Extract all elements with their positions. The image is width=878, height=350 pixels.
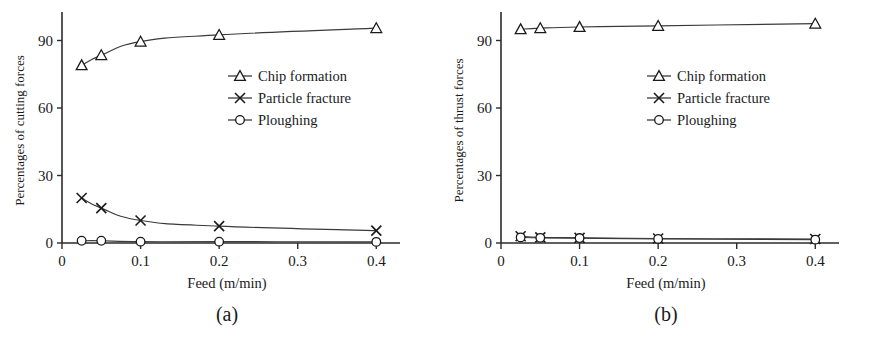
figure-two-panel-chart: 030609000.10.20.30.4Percentages of cutti… [0,0,878,350]
data-point-ploughing [516,233,525,242]
data-point-ploughing [97,236,106,245]
x-axis-title: Feed (m/min) [187,275,267,292]
legend: Chip formationParticle fracturePloughing [647,68,770,128]
x-tick-label: 0.1 [570,253,589,269]
x-tick-label: 0 [497,253,505,269]
y-tick-label: 0 [485,235,493,251]
legend-item-ploughing: Ploughing [228,112,318,128]
legend: Chip formationParticle fracturePloughing [228,68,351,128]
legend-label: Ploughing [677,112,737,128]
data-point-chip-formation [96,50,107,60]
chart-panel-a: 030609000.10.20.30.4Percentages of cutti… [0,0,439,350]
legend-label: Particle fracture [677,90,770,106]
x-tick-label: 0.1 [131,253,150,269]
y-tick-label: 90 [38,33,53,49]
series-line-chip-formation [82,28,377,65]
y-axis-title: Percentages of thrust forces [451,58,466,202]
legend-marker-circle-icon [236,116,245,125]
panel-caption: (a) [216,303,238,326]
data-point-ploughing [77,236,86,245]
data-point-ploughing [575,234,584,243]
data-point-ploughing [136,237,145,246]
legend-item-chip-formation: Chip formation [647,68,767,84]
legend-label: Ploughing [258,112,318,128]
y-tick-label: 30 [477,168,492,184]
data-point-ploughing [215,237,224,246]
data-point-chip-formation [371,23,382,33]
series-line-chip-formation [521,24,816,30]
legend-item-ploughing: Ploughing [647,112,737,128]
x-tick-label: 0 [58,253,66,269]
legend-label: Chip formation [258,68,348,84]
x-tick-label: 0.4 [806,253,825,269]
x-tick-label: 0.2 [649,253,668,269]
data-point-ploughing [372,238,381,247]
y-tick-label: 30 [38,168,53,184]
x-tick-label: 0.2 [210,253,229,269]
y-tick-label: 60 [38,100,53,116]
legend-item-chip-formation: Chip formation [228,68,348,84]
x-tick-label: 0.3 [288,253,307,269]
data-point-ploughing [811,235,820,244]
legend-item-particle-fracture: Particle fracture [647,90,770,106]
legend-marker-circle-icon [655,116,664,125]
x-tick-label: 0.3 [727,253,746,269]
data-point-particle-fracture [96,203,106,213]
data-point-chip-formation [76,60,87,70]
data-point-ploughing [536,234,545,243]
legend-label: Chip formation [677,68,767,84]
x-tick-label: 0.4 [367,253,386,269]
chart-panel-b: 030609000.10.20.30.4Percentages of thrus… [439,0,878,350]
chart-svg-a: 030609000.10.20.30.4Percentages of cutti… [0,0,439,350]
series-line-particle-fracture [82,198,377,231]
legend-label: Particle fracture [258,90,351,106]
chart-svg-b: 030609000.10.20.30.4Percentages of thrus… [439,0,878,350]
data-point-ploughing [654,235,663,244]
y-tick-label: 0 [46,235,54,251]
legend-item-particle-fracture: Particle fracture [228,90,351,106]
y-tick-label: 90 [477,33,492,49]
x-axis-title: Feed (m/min) [626,275,706,292]
data-point-particle-fracture [77,193,87,203]
y-tick-label: 60 [477,100,492,116]
y-axis-title: Percentages of cutting forces [12,55,27,206]
panel-caption: (b) [654,303,677,326]
series-line-ploughing [82,241,377,242]
